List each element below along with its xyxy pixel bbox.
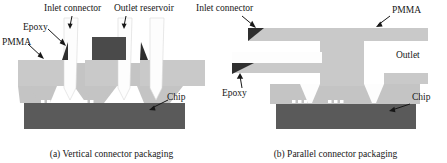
channel-dot — [304, 100, 308, 103]
label-epoxy: Epoxy — [222, 88, 247, 99]
channel-dot — [47, 100, 51, 103]
inlet-connector-channel — [232, 52, 322, 63]
channel-dot — [340, 100, 344, 103]
channel-dot — [78, 100, 82, 103]
label-pmma: PMMA — [2, 37, 31, 48]
label-inlet-connector: Inlet connector — [44, 3, 101, 14]
outlet-ledge — [384, 73, 428, 84]
label-chip: Chip — [412, 92, 430, 103]
label-pmma: PMMA — [392, 5, 421, 16]
label-outlet: Outlet — [396, 50, 420, 61]
channel-dot — [334, 100, 338, 103]
outlet-connector-tube — [150, 18, 164, 100]
arrowhead-inlet-connector — [250, 21, 256, 28]
caption-panel-b: (b) Parallel connector packaging — [224, 149, 447, 159]
channel-dot — [292, 100, 296, 103]
microchannel-dots-group — [41, 100, 94, 103]
pmma-center-pillar — [320, 40, 364, 86]
pmma-upper-left — [18, 60, 68, 86]
channel-dot — [90, 100, 94, 103]
chip-substrate — [276, 103, 416, 129]
epoxy-fillet-outlet — [140, 42, 148, 60]
packaging-schematic-figure: Inlet connector Outlet reservoir Epoxy P… — [0, 0, 447, 163]
label-outlet-reservoir: Outlet reservoir — [114, 3, 174, 14]
caption-panel-a: (a) Vertical connector packaging — [0, 149, 223, 159]
channel-dot — [328, 100, 332, 103]
channel-dot — [53, 100, 57, 103]
outlet-reservoir-block — [92, 37, 126, 60]
parallel-packaging-drawing — [224, 0, 447, 140]
arrowhead-epoxy — [237, 73, 243, 79]
label-epoxy: Epoxy — [23, 22, 48, 33]
panel-parallel-connector-packaging: Inlet connector PMMA Outlet Epoxy Chip (… — [224, 0, 447, 163]
arrowhead-pmma — [38, 52, 44, 59]
label-chip: Chip — [167, 92, 185, 103]
channel-dot — [298, 100, 302, 103]
channel-dot — [84, 100, 88, 103]
vertical-packaging-drawing — [0, 0, 223, 140]
pmma-upper-middle — [85, 60, 123, 86]
pmma-upper-slab — [248, 28, 428, 41]
chip-substrate — [24, 103, 185, 129]
channel-dot — [41, 100, 45, 103]
label-inlet-connector: Inlet connector — [196, 3, 253, 14]
panel-vertical-connector-packaging: Inlet connector Outlet reservoir Epoxy P… — [0, 0, 223, 163]
